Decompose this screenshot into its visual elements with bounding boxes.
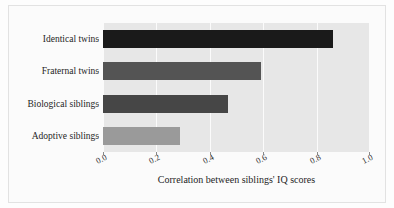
x-tick-label-0.8: 0.8 (308, 152, 323, 166)
x-tick-label-0.6: 0.6 (254, 152, 269, 166)
x-tick-label-0.2: 0.2 (147, 152, 162, 166)
bar-row (103, 23, 370, 55)
bar-identical-twins[interactable] (103, 30, 333, 48)
y-tick-mark (96, 71, 99, 72)
x-axis-title: Correlation between siblings' IQ scores (103, 174, 370, 185)
bar-row (103, 120, 370, 152)
y-axis: Identical twinsFraternal twinsBiological… (8, 23, 99, 152)
bar-row (103, 88, 370, 120)
bar-adoptive-siblings[interactable] (103, 127, 180, 145)
bar-row (103, 55, 370, 87)
x-tick-label-0.4: 0.4 (201, 152, 216, 166)
y-tick-label-biological-siblings: Biological siblings (8, 99, 99, 109)
y-tick-mark (96, 104, 99, 105)
y-tick-label-adoptive-siblings: Adoptive siblings (8, 131, 99, 141)
y-tick-label-fraternal-twins: Fraternal twins (8, 66, 99, 76)
plot-area (103, 23, 370, 152)
chart-figure: Identical twinsFraternal twinsBiological… (0, 0, 394, 208)
bar-series (103, 23, 370, 152)
y-tick-mark (96, 136, 99, 137)
y-tick-label-identical-twins: Identical twins (8, 34, 99, 44)
bar-biological-siblings[interactable] (103, 95, 228, 113)
bar-fraternal-twins[interactable] (103, 62, 261, 80)
y-tick-mark (96, 39, 99, 40)
x-axis: 0.00.20.40.60.81.0 (103, 152, 370, 174)
